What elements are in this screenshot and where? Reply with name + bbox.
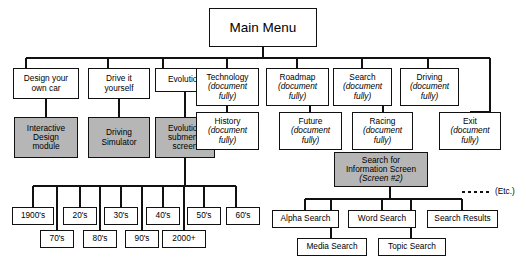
node-sublabel: (document fully) bbox=[208, 82, 247, 101]
node-search-results[interactable]: Search Results bbox=[427, 210, 498, 228]
node-word-search[interactable]: Word Search bbox=[348, 210, 416, 228]
node-label: Main Menu bbox=[230, 20, 297, 35]
node-decade-40s[interactable]: 40's bbox=[146, 207, 180, 225]
node-main-menu[interactable]: Main Menu bbox=[209, 8, 317, 47]
node-exit[interactable]: Exit (document fully) bbox=[439, 112, 501, 150]
node-topic-search[interactable]: Topic Search bbox=[378, 238, 446, 256]
node-drive-it-yourself[interactable]: Drive it yourself bbox=[88, 68, 150, 99]
node-label: 90's bbox=[135, 234, 150, 243]
node-label: 80's bbox=[93, 234, 108, 243]
node-sublabel: (document fully) bbox=[410, 82, 449, 101]
node-sublabel: (document fully) bbox=[343, 82, 382, 101]
node-label: 20's bbox=[73, 211, 88, 220]
node-search-for-information-screen[interactable]: Search for Information Screen (Screen #2… bbox=[334, 152, 428, 187]
node-label: 70's bbox=[50, 234, 65, 243]
node-label: Word Search bbox=[358, 214, 406, 223]
node-decade-60s[interactable]: 60's bbox=[226, 207, 260, 225]
node-history[interactable]: History (document fully) bbox=[196, 112, 259, 150]
node-label: Alpha Search bbox=[281, 214, 331, 223]
sitemap-diagram: Main Menu Design your own car Drive it y… bbox=[0, 0, 526, 274]
node-technology[interactable]: Technology (document fully) bbox=[196, 68, 259, 106]
node-label: Media Search bbox=[306, 242, 357, 251]
node-label: 1900's bbox=[21, 211, 45, 220]
node-decade-90s[interactable]: 90's bbox=[125, 230, 159, 248]
node-decade-80s[interactable]: 80's bbox=[83, 230, 117, 248]
node-media-search[interactable]: Media Search bbox=[297, 238, 367, 256]
node-driving-simulator[interactable]: Driving Simulator bbox=[88, 117, 150, 158]
node-label: 50's bbox=[197, 211, 212, 220]
node-sublabel: (document fully) bbox=[208, 126, 247, 145]
node-interactive-design-module[interactable]: Interactive Design module bbox=[14, 117, 78, 158]
node-label: Design your own car bbox=[24, 74, 68, 93]
node-label: Search for Information Screen bbox=[346, 156, 416, 175]
node-sublabel: (document fully) bbox=[278, 82, 317, 101]
node-sublabel: (document fully) bbox=[291, 126, 330, 145]
node-label: Topic Search bbox=[388, 242, 436, 251]
node-roadmap[interactable]: Roadmap (document fully) bbox=[266, 68, 329, 106]
node-label: 40's bbox=[156, 211, 171, 220]
node-driving[interactable]: Driving (document fully) bbox=[400, 68, 459, 106]
node-label: Interactive Design module bbox=[27, 124, 65, 152]
node-decade-1900s[interactable]: 1900's bbox=[12, 207, 54, 225]
node-sublabel: (document fully) bbox=[450, 126, 489, 145]
node-label: 60's bbox=[236, 211, 251, 220]
node-sublabel: (document fully) bbox=[363, 126, 402, 145]
node-decade-20s[interactable]: 20's bbox=[63, 207, 97, 225]
node-label: 30's bbox=[114, 211, 129, 220]
node-design-your-own-car[interactable]: Design your own car bbox=[13, 68, 79, 99]
node-racing[interactable]: Racing (document fully) bbox=[352, 112, 413, 150]
node-label: 2000+ bbox=[172, 234, 195, 243]
node-sublabel: (Screen #2) bbox=[359, 174, 402, 183]
etc-label: (Etc.) bbox=[495, 186, 515, 196]
node-decade-2000plus[interactable]: 2000+ bbox=[162, 230, 206, 248]
node-future[interactable]: Future (document fully) bbox=[279, 112, 342, 150]
node-decade-70s[interactable]: 70's bbox=[40, 230, 74, 248]
node-search[interactable]: Search (document fully) bbox=[333, 68, 392, 106]
node-decade-30s[interactable]: 30's bbox=[104, 207, 138, 225]
node-label: Drive it yourself bbox=[104, 74, 133, 93]
node-alpha-search[interactable]: Alpha Search bbox=[272, 210, 339, 228]
node-label: Driving Simulator bbox=[101, 128, 136, 147]
node-decade-50s[interactable]: 50's bbox=[187, 207, 221, 225]
node-label: Search Results bbox=[434, 214, 490, 223]
